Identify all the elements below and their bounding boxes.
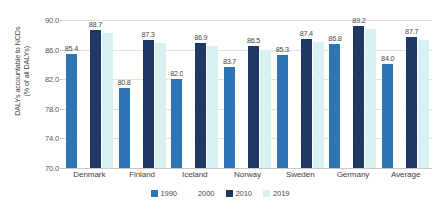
bar-slot: 87.3 — [143, 20, 154, 168]
legend-label: 1990 — [161, 189, 178, 198]
bar-slot — [183, 20, 194, 168]
bar[interactable] — [102, 33, 113, 168]
legend-swatch — [151, 190, 158, 197]
bar[interactable]: 84.0 — [382, 64, 393, 168]
bar[interactable]: 82.0 — [171, 79, 182, 168]
bar-slot — [365, 20, 376, 168]
bar-slot — [131, 20, 142, 168]
bar-slot — [236, 20, 247, 168]
bar[interactable] — [260, 50, 271, 168]
legend-item[interactable]: 2019 — [263, 189, 290, 198]
bar-value-label: 85.3 — [276, 45, 289, 54]
bar-slot — [418, 20, 429, 168]
bar[interactable]: 83.7 — [224, 67, 235, 168]
legend-item[interactable]: 2000 — [188, 189, 215, 198]
bar-slot: 87.7 — [406, 20, 417, 168]
bar-slot: 86.8 — [329, 20, 340, 168]
bar[interactable] — [341, 42, 352, 168]
bar-value-label: 80.8 — [117, 78, 130, 87]
bar[interactable]: 86.9 — [195, 43, 206, 168]
bar[interactable] — [365, 29, 376, 168]
legend-label: 2019 — [273, 189, 290, 198]
bar[interactable] — [289, 53, 300, 168]
bar[interactable] — [418, 40, 429, 168]
bar-slot — [313, 20, 324, 168]
bar-slot: 84.0 — [382, 20, 393, 168]
bar-slot: 85.4 — [66, 20, 77, 168]
bar[interactable]: 88.7 — [90, 30, 101, 168]
bar-slot: 86.5 — [248, 20, 259, 168]
bar-slot — [341, 20, 352, 168]
bar-value-label: 88.7 — [89, 20, 102, 29]
bar-slot — [289, 20, 300, 168]
legend-swatch — [226, 190, 233, 197]
bar[interactable] — [183, 71, 194, 168]
x-axis-labels: DenmarkFinlandIcelandNorwaySwedenGermany… — [63, 170, 432, 179]
bar[interactable]: 80.8 — [119, 88, 130, 168]
bar[interactable] — [236, 62, 247, 168]
y-axis-tick-label: 74.0 — [19, 134, 59, 143]
bar-slot: 82.0 — [171, 20, 182, 168]
bar[interactable]: 86.5 — [248, 46, 259, 168]
gridline — [63, 168, 432, 169]
x-axis-category-label: Sweden — [274, 170, 327, 179]
bar-value-label: 84.0 — [381, 54, 394, 63]
bar-slot: 88.7 — [90, 20, 101, 168]
bar[interactable] — [207, 46, 218, 168]
bar[interactable]: 86.8 — [329, 44, 340, 168]
bar-group: 86.889.2 — [327, 20, 380, 168]
x-axis-category-label: Finland — [116, 170, 169, 179]
bar[interactable] — [394, 61, 405, 168]
bar[interactable] — [313, 42, 324, 168]
bar-value-label: 86.5 — [247, 36, 260, 45]
bar[interactable]: 85.3 — [277, 55, 288, 168]
bar[interactable]: 87.7 — [406, 37, 417, 168]
bar-value-label: 87.7 — [405, 27, 418, 36]
bar-slot: 85.3 — [277, 20, 288, 168]
bar-slot: 80.8 — [119, 20, 130, 168]
bar-group: 80.887.3 — [116, 20, 169, 168]
y-axis-tick-label: 90.0 — [19, 16, 59, 25]
x-axis-category-label: Germany — [327, 170, 380, 179]
bar-slot — [260, 20, 271, 168]
legend-item[interactable]: 2010 — [226, 189, 253, 198]
y-axis-tick-label: 82.0 — [19, 75, 59, 84]
bar-group: 84.087.7 — [379, 20, 432, 168]
bar-chart: DALYs accountable to NCDs (% of all DALY… — [0, 0, 440, 210]
bar-value-label: 86.9 — [194, 33, 207, 42]
bar-value-label: 87.3 — [141, 30, 154, 39]
chart-legend: 1990200020102019 — [0, 189, 440, 198]
bar-value-label: 85.4 — [65, 44, 78, 53]
bar-group: 85.488.7 — [63, 20, 116, 168]
bar-slot — [78, 20, 89, 168]
bar-slot: 89.2 — [353, 20, 364, 168]
bar-value-label: 89.2 — [352, 16, 365, 25]
bar-slot: 86.9 — [195, 20, 206, 168]
bar-slot — [155, 20, 166, 168]
plot-area: 90.086.082.078.074.070.0 85.488.780.887.… — [63, 20, 432, 168]
bar-slot — [207, 20, 218, 168]
bar-value-label: 82.0 — [170, 69, 183, 78]
y-axis-tick-mark — [60, 168, 63, 169]
legend-label: 2000 — [198, 189, 215, 198]
bar-groups: 85.488.780.887.382.086.983.786.585.387.4… — [63, 20, 432, 168]
bar-slot — [394, 20, 405, 168]
x-axis-category-label: Denmark — [63, 170, 116, 179]
bar-slot: 87.4 — [301, 20, 312, 168]
x-axis-category-label: Iceland — [168, 170, 221, 179]
y-axis-tick-label: 78.0 — [19, 104, 59, 113]
bar[interactable]: 87.4 — [301, 39, 312, 168]
bar-value-label: 86.8 — [328, 34, 341, 43]
bar-slot — [102, 20, 113, 168]
bar-slot: 83.7 — [224, 20, 235, 168]
bar-value-label: 87.4 — [300, 29, 313, 38]
bar[interactable] — [78, 57, 89, 168]
y-axis-tick-label: 70.0 — [19, 164, 59, 173]
legend-item[interactable]: 1990 — [151, 189, 178, 198]
bar[interactable] — [155, 43, 166, 168]
bar[interactable]: 89.2 — [353, 26, 364, 168]
bar[interactable] — [131, 82, 142, 168]
bar-group: 85.387.4 — [274, 20, 327, 168]
bar[interactable]: 85.4 — [66, 54, 77, 168]
bar[interactable]: 87.3 — [143, 40, 154, 168]
